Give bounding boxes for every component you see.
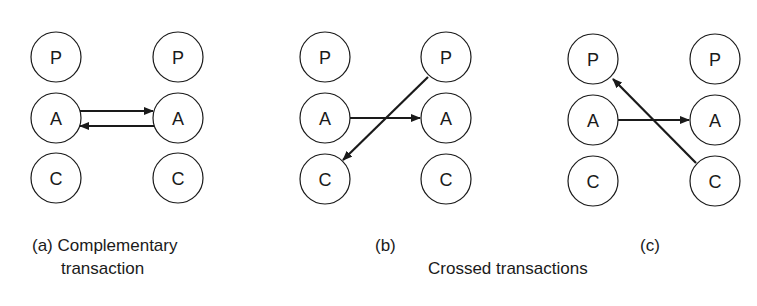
panel-a-right-child-node: C xyxy=(153,153,203,203)
svg-text:P: P xyxy=(319,48,331,68)
svg-text:C: C xyxy=(587,172,600,192)
panel-a-complementary: P A C P A C xyxy=(31,32,203,203)
panel-b-left-adult-node: A xyxy=(300,93,350,143)
panel-c-left-adult-node: A xyxy=(568,95,618,145)
panel-a-right-parent-node: P xyxy=(153,32,203,82)
caption-c: (c) xyxy=(640,236,660,256)
panel-c-left-parent-node: P xyxy=(568,34,618,84)
panel-c-right-adult-node: A xyxy=(690,95,740,145)
svg-text:A: A xyxy=(440,109,452,129)
svg-text:P: P xyxy=(172,48,184,68)
svg-text:A: A xyxy=(50,109,62,129)
svg-text:A: A xyxy=(709,111,721,131)
svg-text:C: C xyxy=(172,169,185,189)
panel-c-right-parent-node: P xyxy=(690,34,740,84)
svg-text:P: P xyxy=(50,48,62,68)
panel-b-right-child-node: C xyxy=(421,154,471,204)
svg-text:P: P xyxy=(709,50,721,70)
panel-b-right-adult-node: A xyxy=(421,93,471,143)
panel-b-right-parent-node: P xyxy=(421,32,471,82)
svg-text:A: A xyxy=(587,111,599,131)
caption-crossed-transactions: Crossed transactions xyxy=(428,259,588,279)
panel-c-left-child-node: C xyxy=(568,156,618,206)
panel-a-left-child-node: C xyxy=(31,153,81,203)
svg-text:A: A xyxy=(172,109,184,129)
panel-b-left-parent-node: P xyxy=(300,32,350,82)
svg-text:P: P xyxy=(587,50,599,70)
panel-a-right-adult-node: A xyxy=(153,93,203,143)
svg-text:C: C xyxy=(319,170,332,190)
panel-b-crossed: P A C P A C xyxy=(300,32,471,204)
svg-text:P: P xyxy=(440,48,452,68)
svg-text:C: C xyxy=(440,170,453,190)
panel-b-left-child-node: C xyxy=(300,154,350,204)
panel-a-left-adult-node: A xyxy=(31,93,81,143)
svg-text:C: C xyxy=(50,169,63,189)
panel-c-right-child-node: C xyxy=(690,156,740,206)
panel-c-crossed: P A C P A C xyxy=(568,34,740,206)
caption-b: (b) xyxy=(375,236,396,256)
panel-a-left-parent-node: P xyxy=(31,32,81,82)
caption-a-line2: transaction xyxy=(61,259,144,279)
svg-text:C: C xyxy=(709,172,722,192)
svg-text:A: A xyxy=(319,109,331,129)
caption-a-line1: (a) Complementary xyxy=(32,236,178,256)
